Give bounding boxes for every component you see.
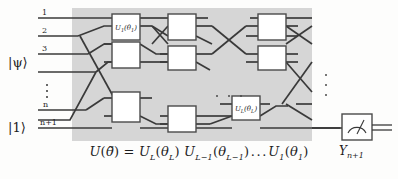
gate-label-ul: UL(θL): [235, 105, 258, 114]
wire-label-n-plus-1: n+1: [40, 118, 57, 127]
wire-label-3: 3: [42, 44, 47, 53]
gate-box-c2-top[interactable]: [168, 14, 196, 40]
wire-label-2: 2: [42, 26, 47, 35]
gate-box-c2-mid[interactable]: [168, 46, 196, 70]
input-ancilla-ket: |1⟩: [8, 120, 26, 135]
gate-box-c3-top[interactable]: [258, 14, 286, 40]
wire-label-1: 1: [42, 8, 47, 17]
wire-label-n: n: [43, 100, 48, 109]
gate-label-u1: U1(θ1): [115, 24, 137, 33]
gate-box-c3-mid[interactable]: [258, 46, 286, 70]
gate-box-c1-mid[interactable]: [112, 42, 140, 68]
figure-root: U1(θ1) UL(θL) |ψ⟩ |1⟩ 1 2 3 n n+1 Yn+1: [0, 0, 398, 179]
gate-box-c2-bottom[interactable]: [168, 106, 196, 132]
caption-equation: U(θ̃) = UL(θL) UL−1(θL−1) . . . U1(θ1): [0, 144, 398, 162]
input-state-ket: |ψ⟩: [8, 55, 28, 70]
gate-box-c1-bottom[interactable]: [112, 92, 140, 122]
